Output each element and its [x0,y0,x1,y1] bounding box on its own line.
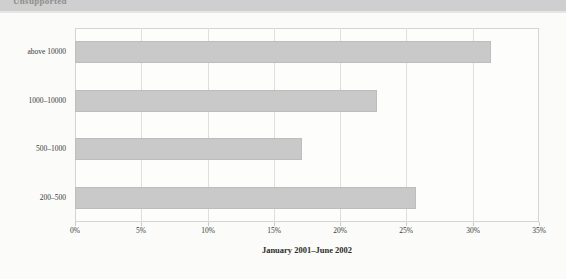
x-axis-label-30%: 30% [453,226,493,235]
x-axis-label-25%: 25% [386,226,426,235]
x-axis-label-15%: 15% [254,226,294,235]
x-axis-label-35%: 35% [519,226,559,235]
bar-1000-10000 [75,90,377,112]
bar-chart-figure: above 100001000–10000500–1000200–500 0%5… [0,13,566,279]
bar-500-1000 [75,138,302,160]
header-band-title: Unsupported [13,0,67,6]
y-axis-label-200-500: 200–500 [0,193,66,202]
header-band: Unsupported [0,0,566,11]
y-axis-label-1000-10000: 1000–10000 [0,96,66,105]
x-axis-label-20%: 20% [320,226,360,235]
y-axis-label-500-1000: 500–1000 [0,144,66,153]
x-axis-label-5%: 5% [121,226,161,235]
bar-200-500 [75,187,416,209]
bar-above-10000 [75,41,491,63]
x-axis-label-0%: 0% [55,226,95,235]
x-axis-title: January 2001–June 2002 [75,245,539,255]
x-axis-label-10%: 10% [188,226,228,235]
y-axis-label-above-10000: above 10000 [0,47,66,56]
